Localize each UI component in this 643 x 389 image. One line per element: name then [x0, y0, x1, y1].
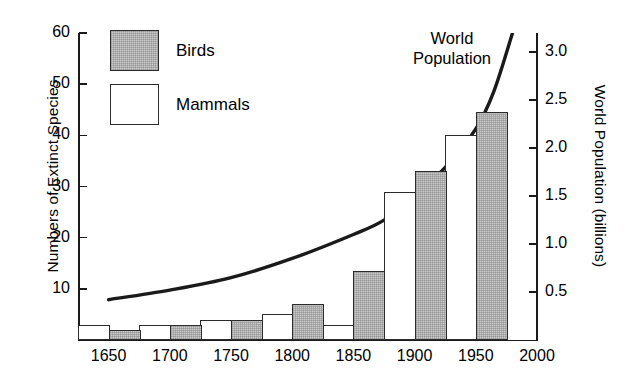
bar-mammals-1825 — [323, 325, 355, 340]
y-axis-right-tick-label: 2.0 — [545, 138, 591, 156]
x-axis-tick-label: 1850 — [323, 347, 383, 365]
world-population-annotation: World Population — [392, 28, 512, 68]
annotation-line-2: Population — [392, 48, 512, 68]
bar-birds-1750 — [231, 320, 263, 340]
y-axis-left-tick-label: 60 — [24, 23, 70, 41]
y-axis-left-tick-label: 10 — [24, 279, 70, 297]
y-axis-left-tick-label: 40 — [24, 125, 70, 143]
bar-birds-1800 — [292, 304, 324, 340]
bar-mammals-1775 — [262, 314, 294, 340]
y-axis-right-tick-label: 0.5 — [545, 282, 591, 300]
legend: Birds Mammals — [110, 30, 250, 138]
bar-birds-1650 — [109, 330, 141, 340]
legend-label-birds: Birds — [176, 41, 215, 61]
bar-mammals-1875 — [384, 192, 416, 340]
legend-label-mammals: Mammals — [176, 95, 250, 115]
y-axis-left-tick-label: 50 — [24, 74, 70, 92]
y-axis-left-tick-label: 30 — [24, 177, 70, 195]
bar-mammals-1675 — [139, 325, 171, 340]
x-axis-tick-label: 1800 — [262, 347, 322, 365]
chart-container: Numbers of Extinct Species World Populat… — [0, 0, 643, 389]
y-axis-right-title: World Population (billions) — [591, 31, 609, 321]
bar-birds-1700 — [170, 325, 202, 340]
legend-item-mammals: Mammals — [110, 84, 250, 125]
y-axis-right-tick-label: 3.0 — [545, 42, 591, 60]
y-axis-right-tick-label: 1.0 — [545, 234, 591, 252]
x-axis-tick-label: 1700 — [140, 347, 200, 365]
x-axis-tick-label: 1900 — [385, 347, 445, 365]
legend-item-birds: Birds — [110, 30, 250, 71]
x-axis-tick-label: 2000 — [507, 347, 567, 365]
legend-swatch-mammals — [110, 84, 159, 125]
bar-mammals-1625 — [78, 325, 110, 340]
bar-birds-1900 — [415, 171, 447, 340]
bar-mammals-1925 — [445, 135, 477, 340]
annotation-line-1: World — [392, 28, 512, 48]
bar-birds-1850 — [353, 271, 385, 340]
legend-swatch-birds — [110, 30, 159, 71]
y-axis-right-tick-label: 1.5 — [545, 186, 591, 204]
y-axis-right-tick-label: 2.5 — [545, 90, 591, 108]
x-axis-tick-label: 1650 — [79, 347, 139, 365]
bar-mammals-1725 — [200, 320, 232, 340]
bar-birds-1950 — [476, 112, 508, 340]
x-axis-tick-label: 1950 — [446, 347, 506, 365]
x-axis-tick-label: 1750 — [201, 347, 261, 365]
y-axis-left-tick-label: 20 — [24, 228, 70, 246]
